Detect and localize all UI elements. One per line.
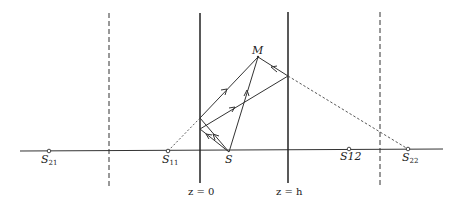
construction-line-s22	[288, 76, 408, 149]
label-s21: S21	[41, 153, 57, 167]
construction-line-s11	[168, 118, 200, 151]
label-z0: z = 0	[188, 186, 214, 197]
label-zh: z = h	[276, 186, 303, 197]
arrowheads	[206, 66, 277, 140]
image-source-diagram: M S S21 S11 S12 S22 z = 0 z = h	[0, 0, 454, 208]
label-s11: S11	[162, 153, 178, 167]
rays	[200, 57, 288, 152]
label-m: M	[251, 44, 264, 57]
label-s12: S12	[340, 150, 362, 163]
label-s: S	[225, 153, 233, 166]
label-s22: S22	[402, 151, 418, 165]
